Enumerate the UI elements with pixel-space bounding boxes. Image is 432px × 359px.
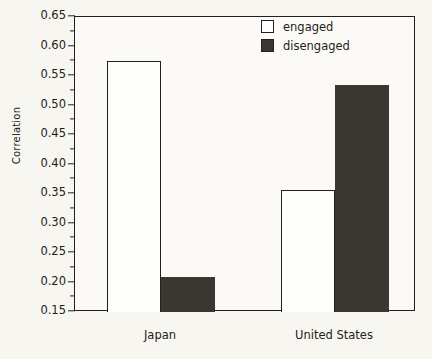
legend-item-disengaged: disengaged xyxy=(261,37,391,54)
y-tick-label: 0.15 xyxy=(18,305,66,317)
y-tick-label: 0.35 xyxy=(18,187,66,199)
x-axis-label-japan: Japan xyxy=(144,328,176,342)
legend-label: disengaged xyxy=(283,39,350,53)
y-tick-label: 0.40 xyxy=(18,158,66,170)
x-axis-label-united-states: United States xyxy=(295,328,373,342)
y-tick-label: 0.55 xyxy=(18,69,66,81)
chart-legend: engageddisengaged xyxy=(261,18,391,56)
bar-japan-disengaged xyxy=(161,277,215,312)
plot-area xyxy=(74,16,415,311)
y-tick-label: 0.50 xyxy=(18,99,66,111)
y-tick-label: 0.65 xyxy=(18,10,66,22)
legend-swatch-disengaged xyxy=(261,39,274,52)
bar-japan-engaged xyxy=(107,61,161,312)
y-tick-label: 0.25 xyxy=(18,246,66,258)
y-tick-label: 0.45 xyxy=(18,128,66,140)
legend-swatch-engaged xyxy=(261,20,274,33)
legend-item-engaged: engaged xyxy=(261,18,391,35)
legend-label: engaged xyxy=(283,20,333,34)
bar-united-states-disengaged xyxy=(335,85,389,312)
bar-united-states-engaged xyxy=(281,190,335,312)
y-tick-label: 0.20 xyxy=(18,276,66,288)
y-tick-label: 0.60 xyxy=(18,40,66,52)
chart-figure: Correlation 0.650.600.550.500.450.400.35… xyxy=(0,0,432,359)
y-tick-label: 0.30 xyxy=(18,217,66,229)
